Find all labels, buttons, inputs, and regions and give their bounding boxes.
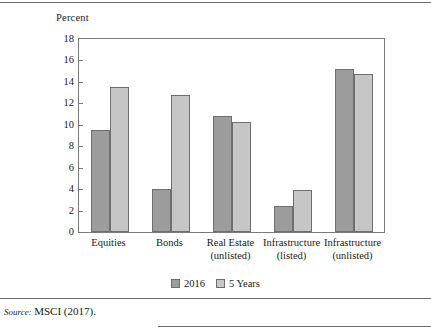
category-line-2: (listed) [261, 249, 322, 262]
bar [91, 130, 110, 232]
x-axis-category-label: Real Estate(unlisted) [200, 236, 261, 262]
category-line-1: Infrastructure [324, 237, 381, 248]
category-line-1: Bonds [156, 237, 183, 248]
y-axis-tick-label: 6 [34, 163, 74, 173]
legend-item: 5 Years [216, 278, 260, 289]
bar [274, 206, 293, 232]
plot-area [78, 38, 385, 233]
plot-inner [79, 39, 384, 232]
bar [110, 87, 129, 232]
legend-swatch-icon [216, 279, 225, 288]
y-axis-tick [79, 146, 83, 147]
y-axis-tick-label: 4 [34, 184, 74, 194]
bar [171, 95, 190, 232]
category-line-2: (unlisted) [200, 249, 261, 262]
source-text: MSCI (2017). [34, 305, 96, 317]
category-line-1: Real Estate [207, 237, 255, 248]
y-axis-tick [79, 211, 83, 212]
category-line-2: (unlisted) [322, 249, 383, 262]
bar [152, 189, 171, 232]
y-axis-tick [79, 125, 83, 126]
y-axis-tick [79, 189, 83, 190]
bar [213, 116, 232, 232]
bar [232, 122, 251, 232]
source-note: Source: MSCI (2017). [4, 305, 96, 317]
bar [354, 74, 373, 232]
y-axis-tick-label: 2 [34, 206, 74, 216]
y-axis-tick-label: 10 [34, 120, 74, 130]
table-rule-source-top [0, 298, 431, 299]
y-axis-labels: 181614121086420 [30, 38, 74, 233]
legend-label: 5 Years [229, 278, 260, 289]
legend-label: 2016 [184, 278, 205, 289]
legend-item: 2016 [171, 278, 205, 289]
legend-swatch-icon [171, 279, 180, 288]
bar [293, 190, 312, 232]
chart-legend: 20165 Years [0, 278, 431, 289]
category-line-1: Infrastructure [263, 237, 320, 248]
bar [335, 69, 354, 232]
y-axis-tick-label: 0 [34, 227, 74, 237]
y-axis-tick [79, 60, 83, 61]
y-axis-tick [79, 103, 83, 104]
bar-chart: 181614121086420 EquitiesBondsReal Estate… [0, 0, 431, 300]
x-axis-category-label: Infrastructure(unlisted) [322, 236, 383, 262]
y-axis-tick [79, 82, 83, 83]
y-axis-tick [79, 168, 83, 169]
x-axis-category-label: Equities [78, 236, 139, 249]
source-label: Source: [4, 307, 32, 317]
y-axis-tick-label: 18 [34, 34, 74, 44]
y-axis-tick-label: 14 [34, 77, 74, 87]
x-axis-category-label: Infrastructure(listed) [261, 236, 322, 262]
x-axis-category-label: Bonds [139, 236, 200, 249]
y-axis-tick-label: 12 [34, 98, 74, 108]
y-axis-tick-label: 8 [34, 141, 74, 151]
y-axis-tick-label: 16 [34, 55, 74, 65]
x-axis-category-labels: EquitiesBondsReal Estate(unlisted)Infras… [78, 236, 385, 276]
category-line-1: Equities [91, 237, 125, 248]
table-rule-bottom [158, 326, 431, 327]
